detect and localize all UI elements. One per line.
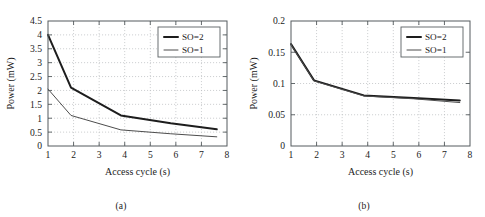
chart-panel-b: 1234567800.050.10.150.2Access cycle (s)P… bbox=[243, 0, 485, 217]
y-tick-label: 0 bbox=[37, 140, 42, 151]
legend-label-so-1: SO=1 bbox=[182, 45, 204, 55]
x-tick-label: 4 bbox=[365, 149, 370, 160]
y-tick-label: 0.05 bbox=[268, 109, 285, 120]
y-tick-label: 0.15 bbox=[268, 47, 285, 58]
x-tick-label: 1 bbox=[46, 149, 51, 160]
y-tick-label: 0.1 bbox=[273, 78, 285, 89]
legend-label-so-1: SO=1 bbox=[425, 45, 447, 55]
x-tick-label: 7 bbox=[199, 149, 204, 160]
chart-svg-b: 1234567800.050.10.150.2Access cycle (s)P… bbox=[243, 0, 485, 180]
x-tick-label: 3 bbox=[340, 149, 345, 160]
chart-svg-a: 1234567800.511.522.533.544.5Access cycle… bbox=[0, 0, 242, 180]
x-tick-label: 2 bbox=[71, 149, 76, 160]
y-axis-title: Power (mW) bbox=[5, 58, 17, 110]
y-tick-label: 2 bbox=[37, 85, 42, 96]
x-tick-label: 4 bbox=[122, 149, 127, 160]
x-tick-label: 2 bbox=[314, 149, 319, 160]
y-tick-label: 0.5 bbox=[30, 127, 42, 138]
x-tick-label: 5 bbox=[148, 149, 153, 160]
figure-root: 1234567800.511.522.533.544.5Access cycle… bbox=[0, 0, 485, 217]
y-tick-label: 1 bbox=[37, 113, 42, 124]
x-axis-title: Access cycle (s) bbox=[105, 166, 170, 178]
x-tick-label: 5 bbox=[391, 149, 396, 160]
y-tick-label: 4.5 bbox=[30, 15, 42, 26]
y-tick-label: 2.5 bbox=[30, 71, 42, 82]
x-tick-label: 6 bbox=[173, 149, 178, 160]
x-tick-label: 7 bbox=[442, 149, 447, 160]
x-axis-title: Access cycle (s) bbox=[348, 166, 413, 178]
y-axis-title: Power (mW) bbox=[248, 58, 260, 110]
y-tick-label: 0.2 bbox=[273, 15, 285, 26]
y-tick-label: 3.5 bbox=[30, 43, 42, 54]
x-tick-label: 8 bbox=[468, 149, 473, 160]
x-tick-label: 8 bbox=[225, 149, 230, 160]
y-tick-label: 0 bbox=[280, 140, 285, 151]
chart-panel-a: 1234567800.511.522.533.544.5Access cycle… bbox=[0, 0, 242, 217]
legend-label-so-2: SO=2 bbox=[425, 32, 447, 42]
x-tick-label: 3 bbox=[97, 149, 102, 160]
panel-caption-b: (b) bbox=[243, 201, 485, 211]
y-tick-label: 1.5 bbox=[30, 99, 42, 110]
legend-label-so-2: SO=2 bbox=[182, 32, 204, 42]
y-tick-label: 3 bbox=[37, 57, 42, 68]
x-tick-label: 6 bbox=[416, 149, 421, 160]
panel-caption-a: (a) bbox=[0, 201, 242, 211]
y-tick-label: 4 bbox=[37, 29, 42, 40]
x-tick-label: 1 bbox=[289, 149, 294, 160]
